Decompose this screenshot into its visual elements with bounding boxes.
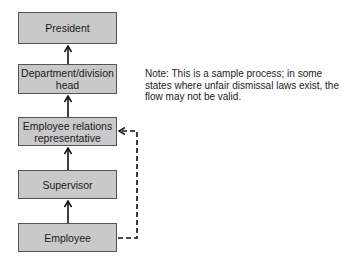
node-label: Supervisor (42, 179, 92, 191)
node-supervisor: Supervisor (18, 170, 117, 199)
node-label: Department/division head (19, 67, 116, 91)
edge-employee-to-er-rep-dashed (118, 131, 137, 238)
node-er-rep: Employee relations representative (18, 117, 117, 146)
node-label: President (45, 22, 89, 34)
node-label: Employee (44, 232, 91, 244)
node-president: President (18, 12, 117, 44)
node-employee: Employee (18, 223, 117, 252)
note-text: Note: This is a sample process; in some … (145, 68, 340, 103)
node-dept-head: Department/division head (18, 64, 117, 94)
node-label: Employee relations representative (19, 120, 116, 144)
